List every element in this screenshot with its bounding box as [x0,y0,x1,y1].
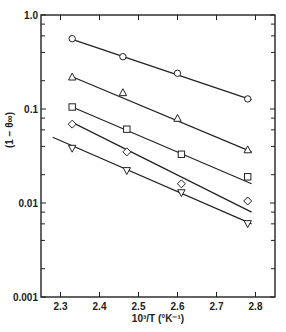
circle-marker [174,70,180,76]
x-tick-label: 2.3 [54,301,68,312]
y-tick-label: 0.01 [19,198,39,209]
triangle-marker [119,89,126,96]
circle-marker [120,54,126,60]
fit-line-triangle [72,77,251,152]
diamond-marker [177,180,185,188]
square-marker [245,174,251,180]
diamond-marker [244,197,252,205]
x-axis-label: 10³/T (°K⁻¹) [132,313,184,324]
plot-frame [41,15,275,297]
arrhenius-plot: 2.32.42.52.62.72.81.00.10.010.001 10³/T … [0,0,286,332]
x-tick-label: 2.5 [132,301,146,312]
triangle-marker [69,73,76,80]
y-tick-label: 0.1 [24,104,38,115]
square-marker [69,104,75,110]
square-marker [124,126,130,132]
plot-border [41,15,275,297]
y-axis-label: (1 − θ∞) [4,112,15,148]
triangle-marker [174,114,181,121]
fit-line-square [72,107,251,184]
fit-lines [53,39,252,223]
circle-marker [69,35,75,41]
fit-line-inverted-triangle [53,137,252,224]
diamond-marker [68,120,76,128]
diamond-marker [123,148,131,156]
square-marker [178,151,184,157]
circle-marker [245,96,251,102]
fit-line-diamond [72,122,251,212]
inverted-triangle-marker [178,190,185,197]
x-tick-label: 2.4 [93,301,107,312]
fit-line-circle [72,39,251,99]
inverted-triangle-marker [244,221,251,228]
axis-ticks [41,15,275,297]
inverted-triangle-marker [69,145,76,152]
x-tick-label: 2.6 [171,301,185,312]
x-tick-label: 2.7 [210,301,224,312]
x-tick-label: 2.8 [249,301,263,312]
y-tick-label: 0.001 [13,292,38,303]
y-tick-label: 1.0 [24,10,38,21]
tick-labels: 2.32.42.52.62.72.81.00.10.010.001 [13,10,263,312]
